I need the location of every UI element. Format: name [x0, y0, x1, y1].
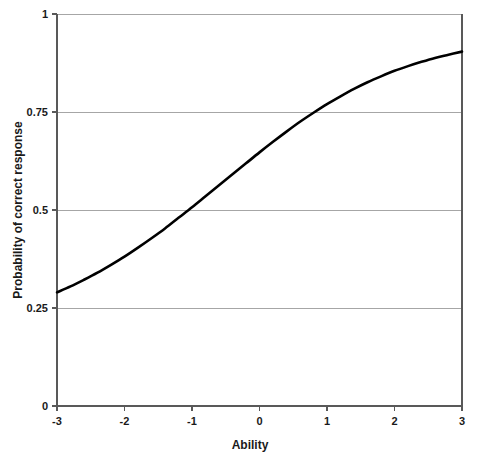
x-tick-label: 0: [256, 415, 262, 427]
y-tick-label: 1: [42, 8, 48, 20]
x-tick-label: -1: [187, 415, 197, 427]
x-axis-title: Ability: [232, 438, 269, 452]
probability-of-correct-response-chart: 00.250.50.751 -3-2-10123 Ability Probabi…: [0, 0, 478, 464]
y-tick-label: 0.5: [33, 204, 48, 216]
x-tick-label: -3: [52, 415, 62, 427]
chart-background: [0, 0, 478, 464]
x-tick-label: 3: [459, 415, 465, 427]
y-tick-label: 0.75: [27, 106, 48, 118]
x-tick-label: -2: [120, 415, 130, 427]
x-tick-label: 1: [324, 415, 330, 427]
y-axis-title: Probability of correct response: [11, 121, 25, 299]
y-tick-label: 0.25: [27, 302, 48, 314]
chart-container: 00.250.50.751 -3-2-10123 Ability Probabi…: [0, 0, 478, 464]
x-tick-label: 2: [391, 415, 397, 427]
y-tick-label: 0: [42, 400, 48, 412]
